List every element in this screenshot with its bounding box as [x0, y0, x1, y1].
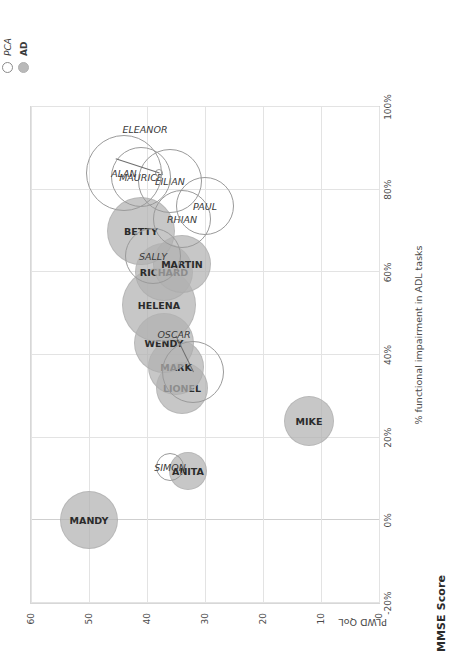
gridline-horizontal [31, 107, 32, 603]
figure-title: MMSE Score [435, 575, 448, 652]
open-circle-icon [2, 62, 13, 73]
gridline-horizontal [379, 107, 380, 603]
gridline-horizontal [321, 107, 322, 603]
x-axis-tick: 40% [383, 345, 393, 365]
x-axis-tick: -20% [383, 591, 393, 614]
legend-label-ad: AD [19, 41, 29, 55]
y-axis-tick: 30 [200, 613, 210, 624]
y-axis-tick: 50 [84, 613, 94, 624]
bubble-mandy[interactable] [60, 491, 118, 549]
x-axis-title: % functional impairment in ADL tasks [413, 185, 424, 485]
bubble-label-eleanor: ELEANOR [122, 124, 167, 135]
x-axis-tick: 100% [383, 94, 393, 120]
legend-label-pca: PCA [3, 38, 13, 56]
y-axis-tick: 10 [316, 613, 326, 624]
bubble-simon[interactable] [156, 453, 184, 481]
plot-area[interactable]: -20%0%20%40%60%80%100%0102030405060PLWD … [30, 106, 380, 604]
legend-item-pca[interactable]: PCA [2, 38, 13, 73]
y-axis-tick: 60 [26, 613, 36, 624]
chart-legend: PCA AD [2, 38, 29, 73]
y-axis-tick: 20 [258, 613, 268, 624]
filled-circle-icon [18, 62, 29, 73]
x-axis-tick: 60% [383, 262, 393, 282]
figure-stage: MMSE Score PLWD QoL x % functional impai… [0, 0, 454, 660]
y-axis-tick: 40 [142, 613, 152, 624]
bubble-alan[interactable] [86, 135, 162, 211]
x-axis-tick: 80% [383, 180, 393, 200]
y-axis-inner-label: PLWD QoL [338, 617, 386, 628]
gridline-horizontal [263, 107, 264, 603]
x-axis-tick: 20% [383, 428, 393, 448]
bubble-mike[interactable] [284, 396, 334, 446]
legend-item-ad[interactable]: AD [18, 38, 29, 73]
x-axis-tick: 0% [383, 513, 393, 527]
